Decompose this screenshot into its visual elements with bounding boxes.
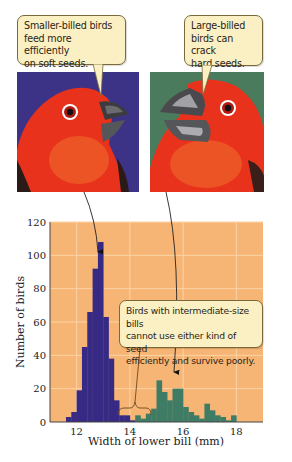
histogram-bar xyxy=(178,389,184,422)
intermediate-callout: Birds with intermediate-size bills canno… xyxy=(119,300,263,348)
histogram-bar xyxy=(183,407,189,422)
histogram-bar xyxy=(77,390,83,422)
x-tick-label: 12 xyxy=(70,426,83,437)
histogram-bar xyxy=(151,409,157,422)
callout-line: efficiently and survive poorly. xyxy=(126,355,256,368)
y-tick-labels: 020406080100120 xyxy=(27,217,46,428)
histogram-bar xyxy=(125,415,131,422)
large-billed-callout: Large-billed birds can crack hard seeds. xyxy=(184,15,263,66)
y-tick-label: 120 xyxy=(27,217,46,228)
y-tick-label: 60 xyxy=(33,317,46,328)
histogram-bar xyxy=(231,415,237,422)
callout-line: Large-billed xyxy=(191,20,256,33)
small-callout-tail xyxy=(92,64,106,98)
histogram-bar xyxy=(109,359,115,422)
x-axis-title: Width of lower bill (mm) xyxy=(88,435,224,448)
histogram-bar xyxy=(98,242,104,422)
histogram-bar xyxy=(66,417,72,422)
y-tick-label: 100 xyxy=(27,250,46,261)
histogram-bar xyxy=(82,347,88,422)
histogram-bar xyxy=(87,312,93,422)
histogram-bar xyxy=(188,412,194,422)
y-tick-label: 20 xyxy=(33,383,46,394)
histogram-bar xyxy=(220,417,226,422)
histogram-bar xyxy=(204,404,210,422)
histogram-bar xyxy=(210,410,216,422)
x-tick-label: 18 xyxy=(230,426,243,437)
small-billed-callout: Smaller-billed birds feed more efficient… xyxy=(17,15,126,65)
large-callout-tail xyxy=(200,65,214,97)
callout-line: feed more efficiently xyxy=(24,33,119,58)
y-axis-title: Number of birds xyxy=(14,276,27,368)
histogram-bar xyxy=(194,415,200,422)
callout-line: cannot use either kind of seed xyxy=(126,330,256,355)
y-tick-label: 80 xyxy=(33,283,46,294)
histogram-bar xyxy=(119,415,125,422)
callout-line: Birds with intermediate-size bills xyxy=(126,305,256,330)
y-tick-label: 40 xyxy=(33,350,46,361)
histogram-bar xyxy=(135,415,141,422)
callout-line: birds can crack xyxy=(191,33,256,58)
histogram-bar xyxy=(215,415,221,422)
y-tick-label: 0 xyxy=(40,417,46,428)
histogram-bar xyxy=(157,380,163,422)
histogram-bar xyxy=(93,269,99,422)
histogram-bar xyxy=(162,392,168,422)
histogram-bar xyxy=(167,400,173,422)
histogram-bar xyxy=(103,317,109,422)
histogram-bar xyxy=(172,389,178,422)
callout-line: Smaller-billed birds xyxy=(24,20,119,33)
histogram-bar xyxy=(71,412,77,422)
